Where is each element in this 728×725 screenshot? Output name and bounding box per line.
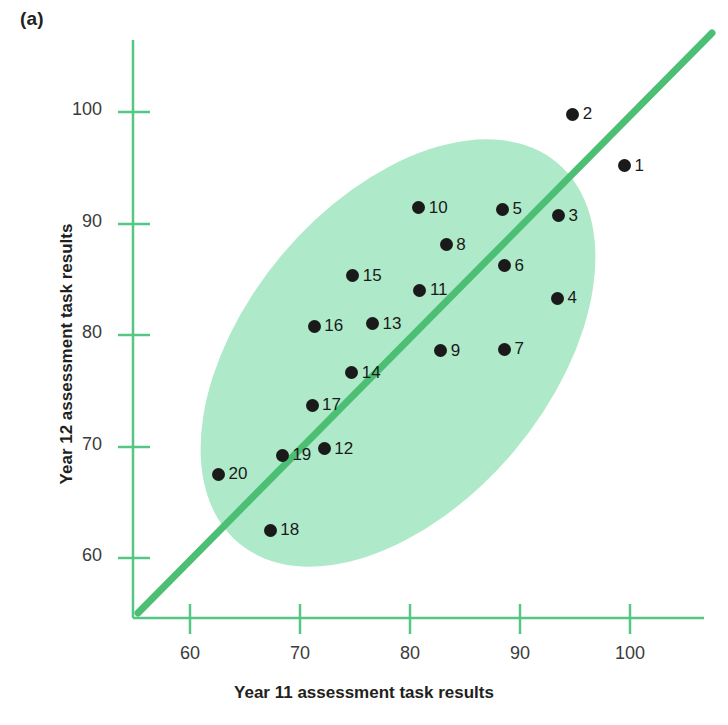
- data-point-marker: [306, 399, 319, 412]
- x-tick-label-80: 80: [380, 643, 440, 664]
- x-tick-label-90: 90: [490, 643, 550, 664]
- data-point-label: 13: [383, 314, 402, 334]
- data-point-label: 18: [280, 520, 299, 540]
- x-axis-title: Year 11 assessment task results: [0, 683, 728, 703]
- data-point-marker: [440, 238, 453, 251]
- data-point-label: 4: [567, 288, 576, 308]
- scatter-plot-figure: (a) 100 90 80 70 60 60 70 80 90 100 1234…: [0, 0, 728, 725]
- data-point-label: 15: [363, 266, 382, 286]
- data-point-marker: [551, 292, 564, 305]
- data-point-marker: [318, 442, 331, 455]
- data-point-marker: [308, 320, 321, 333]
- data-point-marker: [618, 159, 631, 172]
- x-tick-label-100: 100: [600, 643, 660, 664]
- data-point-label: 12: [334, 439, 353, 459]
- data-point-label: 5: [512, 199, 521, 219]
- data-point-label: 9: [451, 341, 460, 361]
- data-point-marker: [264, 524, 277, 537]
- data-point-label: 8: [456, 235, 465, 255]
- y-tick-label-100: 100: [42, 99, 102, 120]
- data-point-label: 17: [322, 395, 341, 415]
- y-axis-title: Year 12 assessment task results: [57, 124, 77, 584]
- data-point-label: 2: [583, 104, 592, 124]
- data-point-label: 3: [569, 206, 578, 226]
- data-point-label: 11: [430, 280, 448, 300]
- data-point-label: 1: [635, 156, 644, 176]
- data-point-label: 10: [429, 198, 448, 218]
- data-point-marker: [566, 108, 579, 121]
- data-point-label: 6: [515, 256, 524, 276]
- data-point-label: 19: [292, 445, 311, 465]
- data-point-marker: [498, 343, 511, 356]
- x-tick-label-70: 70: [270, 643, 330, 664]
- data-point-label: 16: [324, 316, 343, 336]
- data-point-label: 20: [229, 464, 248, 484]
- data-point-marker: [212, 468, 225, 481]
- x-tick-label-60: 60: [160, 643, 220, 664]
- data-point-marker: [496, 203, 509, 216]
- data-point-marker: [276, 449, 289, 462]
- data-point-label: 14: [362, 363, 381, 383]
- data-point-label: 7: [515, 339, 524, 359]
